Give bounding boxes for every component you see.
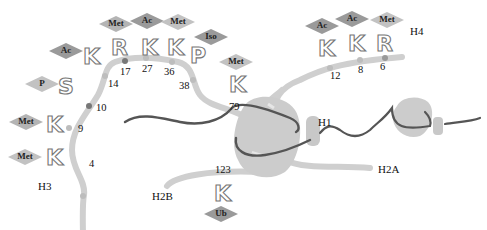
label-h2b: H2B xyxy=(152,190,173,202)
mod-met-k4: Met xyxy=(8,149,42,165)
label-h4: H4 xyxy=(410,25,423,37)
mod-ac-k8: Ac xyxy=(335,11,369,27)
residue-s10: S xyxy=(58,76,74,98)
residue-k4: K xyxy=(46,147,63,169)
mod-met-k9: Met xyxy=(9,114,43,130)
pos-123: 123 xyxy=(215,164,231,175)
pos-14: 14 xyxy=(108,78,119,89)
pos-9: 9 xyxy=(78,123,83,134)
mod-met-k79: Met xyxy=(219,54,253,70)
mod-p-s10: P xyxy=(25,76,59,92)
label-h1: H1 xyxy=(318,116,331,128)
mod-ac-k12: Ac xyxy=(305,18,339,34)
pos-6: 6 xyxy=(380,61,385,72)
residue-k79: K xyxy=(229,74,246,96)
residue-r6: R xyxy=(376,33,393,55)
mod-met-r6: Met xyxy=(370,12,404,28)
residue-k14: K xyxy=(83,46,100,68)
histone-modification-diagram: H3 H4 H1 H2A H2B K 4 Met K 9 Met S 10 P … xyxy=(0,0,487,230)
pos-10: 10 xyxy=(96,102,107,113)
mod-ac-k27: Ac xyxy=(130,13,164,29)
residue-k36: K xyxy=(167,37,184,59)
residue-r17: R xyxy=(111,37,128,59)
pos-4: 4 xyxy=(89,158,94,169)
mod-iso-p38: Iso xyxy=(194,29,228,45)
nucleosome-core-2 xyxy=(393,97,432,137)
pos-36: 36 xyxy=(164,66,175,77)
mod-met-k36: Met xyxy=(161,14,195,30)
label-h2a: H2A xyxy=(378,163,399,175)
mod-ub-k123: Ub xyxy=(204,206,238,222)
h2a-tail xyxy=(285,160,370,168)
residue-k8: K xyxy=(348,33,365,55)
label-h3: H3 xyxy=(38,180,51,192)
h1-protein-2 xyxy=(433,117,443,135)
pos-38: 38 xyxy=(179,80,190,91)
mod-met-r17: Met xyxy=(99,16,133,32)
residue-k123: K xyxy=(214,183,231,205)
residue-k9: K xyxy=(46,114,63,136)
pos-17: 17 xyxy=(120,66,131,77)
residue-k27: K xyxy=(141,37,158,59)
mod-ac-k14: Ac xyxy=(49,43,83,59)
pos-79: 79 xyxy=(229,101,240,112)
pos-27: 27 xyxy=(142,63,153,74)
residue-p38: P xyxy=(190,45,206,67)
pos-8: 8 xyxy=(358,64,363,75)
pos-12: 12 xyxy=(330,70,341,81)
residue-k12: K xyxy=(318,38,335,60)
